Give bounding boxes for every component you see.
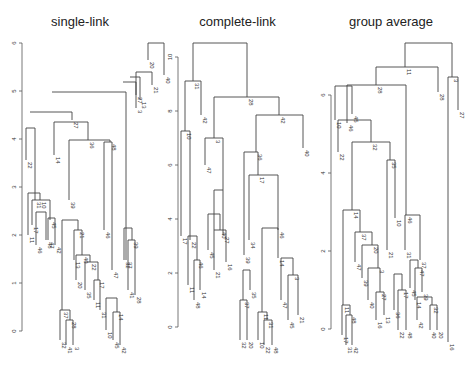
leaf-label: 34 xyxy=(250,242,256,249)
leaf-label: 14 xyxy=(416,302,422,309)
leaf-label: 47 xyxy=(356,264,362,271)
leaf-label: 11 xyxy=(29,237,35,244)
leaf-label: 39 xyxy=(133,242,139,249)
leaf-label: 35 xyxy=(86,292,92,299)
leaf-label: 10 xyxy=(41,202,47,209)
leaf-label: 42 xyxy=(202,117,208,124)
leaf-label: 31 xyxy=(194,83,200,90)
leaf-label: 28 xyxy=(248,99,254,106)
leaf-label: 10 xyxy=(107,332,113,339)
leaf-label: 10 xyxy=(336,122,342,129)
leaf-label: 37 xyxy=(421,262,427,269)
y-tick-label: 2 xyxy=(11,233,17,237)
y-tick-label: 2 xyxy=(167,271,173,275)
leaf-label: 42 xyxy=(121,347,127,354)
leaf-label: 17 xyxy=(182,238,188,245)
leaf-label: 36 xyxy=(395,312,401,319)
dendrogram-2: 0246102217113146484514424737394032202816… xyxy=(320,43,465,354)
leaf-label: 27 xyxy=(224,237,230,244)
y-tick-label: 6 xyxy=(320,93,326,97)
leaf-label: 3 xyxy=(74,347,80,351)
leaf-label: 17 xyxy=(259,177,265,184)
leaf-label: 46 xyxy=(279,232,285,239)
leaf-label: 40 xyxy=(431,332,437,339)
dendrogram-plots: 0123456221117314610484745144232374139282… xyxy=(0,0,472,368)
leaf-label: 46 xyxy=(407,217,413,224)
leaf-label: 27 xyxy=(73,122,79,129)
leaf-label: 16 xyxy=(377,322,383,329)
leaf-label: 48 xyxy=(351,317,357,324)
y-tick-label: 10 xyxy=(167,53,173,60)
leaf-label: 17 xyxy=(33,227,39,234)
leaf-label: 42 xyxy=(353,347,359,354)
y-tick-label: 6 xyxy=(167,163,173,167)
leaf-label: 10 xyxy=(259,342,265,349)
leaf-label: 47 xyxy=(419,270,425,277)
leaf-label: 45 xyxy=(411,290,417,297)
y-tick-label: 5 xyxy=(11,89,17,93)
leaf-label: 3 xyxy=(137,110,143,114)
leaf-label: 37 xyxy=(127,262,133,269)
leaf-label: 48 xyxy=(195,302,201,309)
leaf-label: 45 xyxy=(289,322,295,329)
leaf-label: 47 xyxy=(49,242,55,249)
leaf-label: 48 xyxy=(407,332,413,339)
leaf-label: 3 xyxy=(215,140,221,144)
leaf-label: 28 xyxy=(71,322,77,329)
leaf-label: 22 xyxy=(91,264,97,271)
leaf-label: 32 xyxy=(433,307,439,314)
leaf-label: 41 xyxy=(67,347,73,354)
leaf-label: 46 xyxy=(105,232,111,239)
y-tick-label: 8 xyxy=(167,109,173,113)
leaf-label: 13 xyxy=(141,102,147,109)
leaf-label: 13 xyxy=(385,317,391,324)
leaf-label: 35 xyxy=(391,162,397,169)
y-tick-label: 1 xyxy=(11,281,17,285)
leaf-label: 46 xyxy=(198,262,204,269)
leaf-label: 17 xyxy=(99,282,105,289)
leaf-label: 14 xyxy=(55,157,61,164)
leaf-label: 22 xyxy=(27,162,33,169)
leaf-label: 10 xyxy=(396,220,402,227)
leaf-label: 35 xyxy=(251,292,257,299)
y-tick-label: 4 xyxy=(167,217,173,221)
leaf-label: 48 xyxy=(111,144,117,151)
leaf-label: 14 xyxy=(279,260,285,267)
leaf-label: 21 xyxy=(388,252,394,259)
leaf-label: 21 xyxy=(153,87,159,94)
leaf-label: 48 xyxy=(273,347,279,354)
leaf-label: 31 xyxy=(347,347,353,354)
leaf-label: 36 xyxy=(257,154,263,161)
leaf-label: 28 xyxy=(439,94,445,101)
leaf-label: 37 xyxy=(63,312,69,319)
leaf-label: 40 xyxy=(83,257,89,264)
leaf-label: 10 xyxy=(186,133,192,140)
y-tick-label: 2 xyxy=(320,249,326,253)
leaf-label: 22 xyxy=(265,347,271,354)
leaf-label: 39 xyxy=(70,202,76,209)
leaf-label: 32 xyxy=(241,342,247,349)
y-tick-label: 4 xyxy=(11,137,17,141)
y-tick-label: 0 xyxy=(11,329,17,333)
leaf-label: 45 xyxy=(114,342,120,349)
leaf-label: 36 xyxy=(89,142,95,149)
leaf-label: 27 xyxy=(381,294,387,301)
leaf-label: 27 xyxy=(459,112,465,119)
leaf-label: 40 xyxy=(369,302,375,309)
y-tick-label: 0 xyxy=(320,327,326,331)
leaf-label: 46 xyxy=(348,125,354,132)
leaf-label: 13 xyxy=(75,262,81,269)
leaf-label: 22 xyxy=(339,154,345,161)
leaf-label: 40 xyxy=(165,77,171,84)
leaf-label: 11 xyxy=(406,69,412,76)
leaf-label: 20 xyxy=(373,247,379,254)
leaf-label: 20 xyxy=(248,342,254,349)
leaf-label: 11 xyxy=(263,314,269,321)
leaf-label: 17 xyxy=(343,337,349,344)
leaf-label: 45 xyxy=(51,222,57,229)
leaf-label: 31 xyxy=(268,322,274,329)
dendrogram-1: 0246810171011223148461442474532140271632… xyxy=(167,43,310,354)
leaf-label: 20 xyxy=(149,62,155,69)
leaf-label: 3 xyxy=(294,277,300,281)
leaf-label: 46 xyxy=(37,247,43,254)
